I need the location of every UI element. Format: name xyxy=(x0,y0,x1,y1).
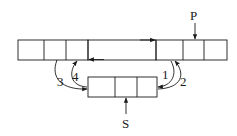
pointer-s-label: S xyxy=(122,116,129,131)
top-node-p xyxy=(156,40,227,60)
pointer-p-label: P xyxy=(190,8,197,23)
top-list xyxy=(18,40,227,60)
top-node-left xyxy=(18,40,88,60)
step-4-label: 4 xyxy=(72,69,79,84)
linked-list-diagram: P S 3 4 1 2 xyxy=(0,0,237,136)
step-3-label: 3 xyxy=(57,74,64,89)
step-2-label: 2 xyxy=(180,74,187,89)
top-link-gap xyxy=(88,40,156,60)
step-1-label: 1 xyxy=(162,67,169,82)
new-node-s xyxy=(88,77,157,97)
